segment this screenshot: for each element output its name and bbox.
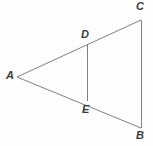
- vertex-label-e: E: [82, 104, 89, 115]
- triangle-diagram-canvas: [0, 0, 153, 146]
- geometry-figure: A B C D E: [0, 0, 153, 146]
- segment-ab: [17, 77, 141, 128]
- vertex-label-b: B: [136, 130, 144, 141]
- vertex-label-d: D: [81, 29, 89, 40]
- vertex-label-a: A: [6, 70, 14, 81]
- segment-ac: [17, 20, 141, 77]
- vertex-label-c: C: [136, 1, 144, 12]
